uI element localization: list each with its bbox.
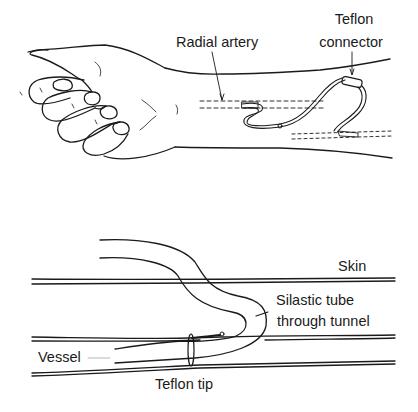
teflon-connector	[341, 76, 362, 88]
nail-middle	[84, 92, 100, 105]
label-silastic-tube-line2: through tunnel	[277, 314, 370, 329]
hand-outline	[30, 45, 165, 80]
radial-artery-leader	[212, 52, 222, 100]
finger-little	[83, 122, 128, 155]
finger-ring	[58, 106, 112, 142]
finger-middle	[42, 90, 95, 121]
label-teflon-connector-line2: connector	[306, 35, 396, 50]
silastic-tube-inner	[100, 258, 246, 349]
label-vessel: Vessel	[38, 350, 81, 365]
skin-layer	[32, 278, 395, 279]
forearm-upper-edge	[165, 59, 390, 74]
label-teflon-connector-line1: Teflon	[322, 12, 386, 27]
label-silastic-tube-line1: Silastic tube	[276, 293, 354, 308]
shunt-tube	[242, 78, 366, 137]
label-radial-artery: Radial artery	[176, 35, 258, 50]
label-skin: Skin	[338, 259, 366, 274]
forearm-illustration	[20, 45, 392, 159]
label-teflon-tip: Teflon tip	[155, 377, 213, 392]
vein-vessel	[292, 131, 392, 139]
nail-index	[53, 79, 72, 91]
vessel-lower-wall	[32, 361, 395, 373]
forearm-lower-edge	[175, 147, 392, 158]
